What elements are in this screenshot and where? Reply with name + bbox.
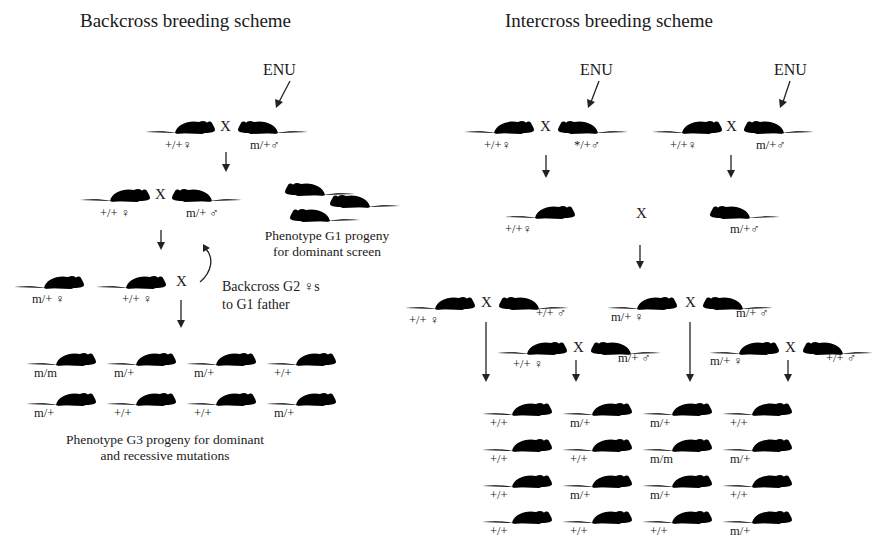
- arrows-layer: [0, 0, 873, 548]
- enu-arrow: [279, 81, 290, 102]
- arrowhead-icon: [275, 99, 283, 108]
